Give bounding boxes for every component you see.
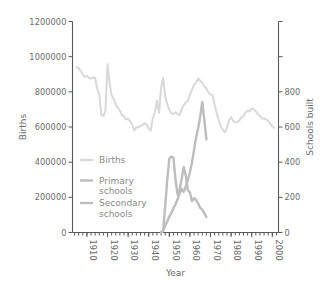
left-axis-tick-label: 600000 <box>35 122 67 132</box>
right-axis-tick-label: 0 <box>285 228 290 238</box>
x-axis-title: Year <box>165 268 185 278</box>
right-axis-tick-label: 600 <box>285 122 301 132</box>
x-axis-tick-label: 1940 <box>150 240 160 261</box>
right-axis-title: Schools built <box>305 98 315 156</box>
series-line-births <box>77 64 275 132</box>
x-axis-tick-label: 1980 <box>232 240 242 261</box>
left-axis-tick-label: 200000 <box>35 192 67 202</box>
right-axis-tick-label: 400 <box>285 157 301 167</box>
x-axis-tick-label: 2000 <box>274 240 284 261</box>
x-axis-tick-label: 1910 <box>88 240 98 261</box>
left-axis-tick-label: 1000000 <box>29 52 66 62</box>
legend-label-1: schools <box>99 186 133 196</box>
left-axis-tick-label: 800000 <box>35 87 67 97</box>
right-axis-tick-label: 800 <box>285 87 301 97</box>
legend-label-2: schools <box>99 209 133 219</box>
births-schools-line-chart: 0200000400000600000800000100000012000000… <box>0 0 332 284</box>
x-axis-tick-label: 1930 <box>129 240 139 261</box>
x-axis-tick-label: 1990 <box>253 240 263 261</box>
x-axis-tick-label: 1920 <box>109 240 119 261</box>
x-axis-tick-label: 1960 <box>191 240 201 261</box>
x-axis-tick-label: 1970 <box>212 240 222 261</box>
legend-label-0: Births <box>99 155 126 165</box>
chart-figure: 0200000400000600000800000100000012000000… <box>0 0 332 284</box>
plot-area: 0200000400000600000800000100000012000000… <box>18 17 315 279</box>
left-axis-tick-label: 400000 <box>35 157 67 167</box>
left-axis-tick-label: 1200000 <box>29 17 66 27</box>
left-axis-tick-label: 0 <box>61 228 66 238</box>
left-axis-title: Births <box>18 114 28 141</box>
legend-label-1: Primary <box>99 176 134 186</box>
legend-label-2: Secondary <box>99 198 147 208</box>
right-axis-tick-label: 200 <box>285 192 301 202</box>
x-axis-tick-label: 1950 <box>171 240 181 261</box>
